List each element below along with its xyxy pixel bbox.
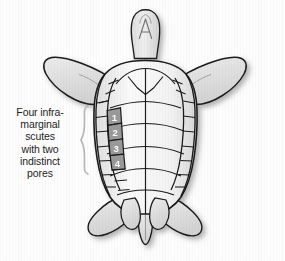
callout-line-5: indistinct (4, 155, 76, 167)
scute-number-1: 1 (112, 112, 118, 123)
callout-line-2: marginal (4, 118, 76, 130)
callout-line-6: pores (4, 167, 76, 179)
scute-number-4: 4 (115, 158, 121, 169)
callout-line-4: with two (4, 143, 76, 155)
scute-number-3: 3 (114, 143, 119, 154)
cropped-caption-text (0, 0, 285, 6)
scute-number-2: 2 (113, 127, 118, 138)
turtle-figure: 1 2 3 4 (0, 0, 285, 261)
callout-line-1: Four infra- (4, 106, 76, 118)
callout-line-3: scutes (4, 130, 76, 142)
callout-bracket (81, 106, 88, 174)
callout-label: Four infra- marginal scutes with two ind… (4, 106, 76, 179)
turtle-head (131, 10, 159, 59)
